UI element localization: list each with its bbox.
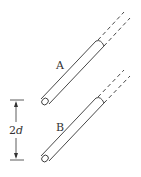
arrow-down-icon <box>14 153 18 159</box>
wire-b-label: B <box>56 121 64 134</box>
arrow-up-icon <box>14 101 18 107</box>
wire-a-label: A <box>55 59 65 72</box>
wire-b <box>40 70 130 163</box>
parallel-wires-diagram: A B 2d <box>0 0 141 177</box>
wire-a <box>40 12 130 106</box>
dimension-label: 2d <box>9 124 23 137</box>
